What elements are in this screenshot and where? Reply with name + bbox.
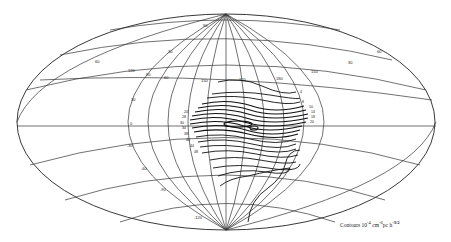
svg-text:18: 18 <box>311 115 315 119</box>
svg-text:120: 120 <box>128 68 135 73</box>
caption-unit1: cm <box>372 222 379 228</box>
svg-text:150: 150 <box>201 78 208 83</box>
svg-text:-120: -120 <box>194 215 203 220</box>
svg-text:90: 90 <box>146 72 151 77</box>
svg-text:-30: -30 <box>127 143 134 148</box>
svg-text:30: 30 <box>131 97 136 102</box>
svg-text:20: 20 <box>310 120 314 124</box>
svg-text:38: 38 <box>184 132 188 136</box>
svg-text:28: 28 <box>182 115 186 119</box>
svg-text:8: 8 <box>302 100 304 104</box>
svg-text:4: 4 <box>300 90 302 94</box>
svg-text:-60: -60 <box>141 166 148 171</box>
svg-text:30: 30 <box>348 60 353 65</box>
svg-text:0: 0 <box>130 121 133 126</box>
svg-text:120: 120 <box>239 77 246 82</box>
caption-exp1: -4 <box>367 220 371 225</box>
contour-units-caption: Contours 10-4 cm-6pc h-3/2 <box>340 220 400 228</box>
svg-text:34: 34 <box>182 126 186 130</box>
svg-text:14: 14 <box>311 110 315 114</box>
svg-text:44: 44 <box>190 144 194 148</box>
svg-text:10: 10 <box>309 105 313 109</box>
svg-text:60: 60 <box>95 59 100 64</box>
caption-exp3: -3/2 <box>392 220 399 225</box>
caption-prefix: Contours 10 <box>340 222 367 228</box>
caption-unit2: pc h <box>383 222 392 228</box>
parallel-grid <box>17 20 436 222</box>
svg-text:180: 180 <box>276 76 283 81</box>
sky-map-figure: 90 60 120 90 60 30 150 120 180 150 30 60… <box>0 0 451 242</box>
svg-text:-90: -90 <box>160 187 167 192</box>
svg-text:48: 48 <box>194 150 198 154</box>
svg-text:40: 40 <box>186 138 190 142</box>
svg-text:90: 90 <box>203 23 208 28</box>
svg-text:30: 30 <box>168 49 173 54</box>
svg-text:30: 30 <box>180 121 184 125</box>
svg-text:150: 150 <box>311 69 318 74</box>
svg-text:24: 24 <box>184 110 188 114</box>
svg-text:60: 60 <box>164 75 169 80</box>
svg-text:60: 60 <box>377 49 382 54</box>
